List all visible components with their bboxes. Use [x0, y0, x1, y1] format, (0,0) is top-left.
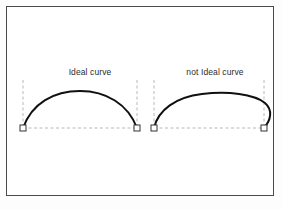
- clipped-caption-sliver: [6, 201, 156, 208]
- ideal-end-marker: [134, 125, 140, 131]
- page-background: Ideal curve not Ideal curve: [0, 0, 282, 209]
- not-ideal-end-marker: [261, 125, 267, 131]
- figure-frame: Ideal curve not Ideal curve: [6, 6, 274, 196]
- not-ideal-curve-path: [154, 93, 270, 128]
- vertical-guides: [23, 80, 264, 128]
- curve-comparison-diagram: [7, 7, 273, 195]
- ideal-start-marker: [20, 125, 26, 131]
- not-ideal-curve-label: not Ideal curve: [165, 67, 265, 77]
- ideal-curve-path: [23, 91, 137, 128]
- not-ideal-start-marker: [151, 125, 157, 131]
- ideal-curve-label: Ideal curve: [45, 67, 135, 77]
